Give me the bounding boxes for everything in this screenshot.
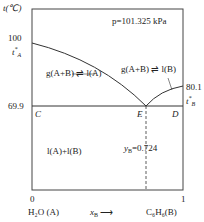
xB-sub: B <box>94 212 98 218</box>
yB-annotation: yB=0.724 <box>124 143 157 156</box>
tA-label: t*A <box>12 44 21 60</box>
left-component: H₂O (A) <box>28 207 59 217</box>
x-axis-label: xB ⟶ <box>90 207 113 220</box>
yB-value: =0.724 <box>132 143 157 153</box>
tB-sub: B <box>192 101 196 107</box>
right-region-label: g(A+B) ⇌ l(B) <box>121 64 176 74</box>
point-D: D <box>172 109 179 119</box>
plot-frame <box>32 9 183 190</box>
eutectic-temp: 69.9 <box>8 101 24 111</box>
curve-B <box>146 86 183 106</box>
pressure-label: p=101.325 kPa <box>112 16 167 26</box>
tA-value: 100 <box>8 33 22 43</box>
arrow-right-icon: ⟶ <box>100 207 113 217</box>
tA-sub: A <box>18 52 22 58</box>
tB-value: 80.1 <box>186 82 202 92</box>
right-component: C₆H₆(B) <box>146 207 177 217</box>
y-axis-label: t(℃) <box>3 3 22 13</box>
x-max-label: 1 <box>181 194 186 204</box>
arrow-right-pointer <box>168 78 172 90</box>
x-min-label: 0 <box>30 194 35 204</box>
two-liquid-region-label: l(A)+l(B) <box>47 146 82 156</box>
point-E: E <box>137 109 143 119</box>
point-C: C <box>35 109 41 119</box>
left-region-label: g(A+B) ⇌ l(A) <box>46 68 102 78</box>
tB-label: t*B <box>186 93 195 109</box>
